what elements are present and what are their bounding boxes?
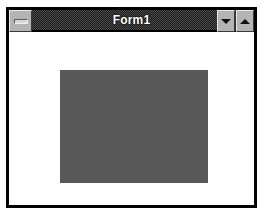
client-area[interactable] xyxy=(9,32,254,203)
system-menu-icon xyxy=(14,19,28,24)
title-bar-spacer xyxy=(32,10,217,30)
system-menu-button[interactable] xyxy=(9,10,32,32)
triangle-up-icon xyxy=(240,19,250,24)
window-inner: Form1 xyxy=(9,10,254,205)
gray-rectangle[interactable] xyxy=(60,70,208,183)
minimize-button[interactable] xyxy=(217,10,235,32)
maximize-button[interactable] xyxy=(236,10,254,32)
caption-buttons xyxy=(217,10,254,30)
triangle-down-icon xyxy=(221,19,231,24)
title-bar[interactable]: Form1 xyxy=(9,10,254,32)
desktop-background: Form1 xyxy=(0,0,267,224)
form-window[interactable]: Form1 xyxy=(6,7,257,208)
